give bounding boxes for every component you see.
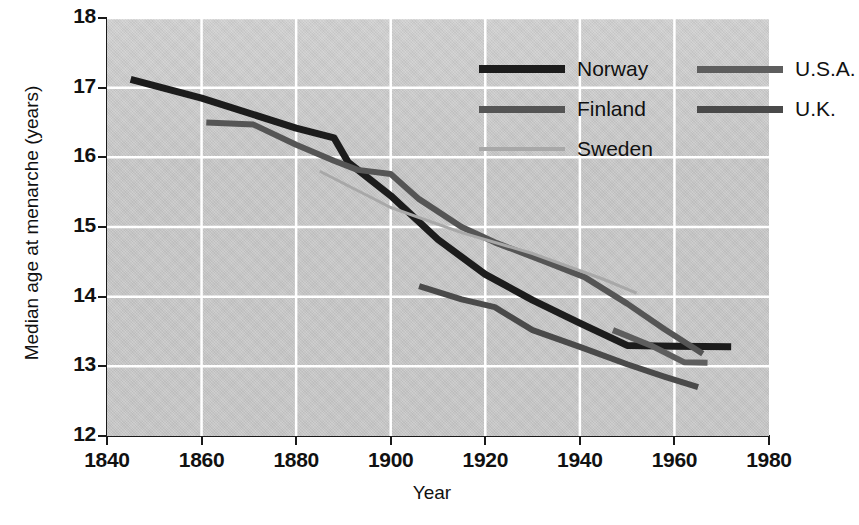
x-tick-mark — [484, 436, 486, 445]
x-tick-label: 1920 — [445, 448, 525, 472]
y-tick-label: 15 — [62, 213, 96, 237]
legend-swatch — [479, 147, 565, 151]
legend-swatch — [479, 106, 565, 113]
x-tick-label: 1980 — [729, 448, 809, 472]
x-tick-mark — [201, 436, 203, 445]
legend-label: Finland — [577, 96, 646, 122]
x-tick-label: 1960 — [634, 448, 714, 472]
y-tick-label: 14 — [62, 283, 96, 307]
y-tick-label: 18 — [62, 4, 96, 28]
legend-swatch — [697, 66, 783, 73]
y-tick-label: 17 — [62, 74, 96, 98]
x-tick-label: 1880 — [256, 448, 336, 472]
plot-area: NorwayFinlandSwedenU.S.A.U.K. — [107, 18, 769, 436]
x-axis-title-text: Year — [413, 482, 451, 503]
y-tick-label: 13 — [62, 352, 96, 376]
x-tick-label: 1900 — [351, 448, 431, 472]
x-tick-label: 1860 — [162, 448, 242, 472]
legend-label: Norway — [577, 56, 648, 82]
y-tick-label: 12 — [62, 422, 96, 446]
legend-swatch — [479, 65, 565, 73]
x-tick-mark — [768, 436, 770, 445]
x-tick-mark — [390, 436, 392, 445]
x-tick-label: 1940 — [540, 448, 620, 472]
x-tick-mark — [579, 436, 581, 445]
x-tick-label: 1840 — [67, 448, 147, 472]
legend-label: U.S.A. — [795, 56, 856, 82]
y-axis-title: Median age at menarche (years) — [21, 23, 43, 423]
y-tick-label-group: 12131415161718 — [52, 0, 96, 1]
legend-swatch — [697, 106, 783, 113]
series-line-u-k — [419, 286, 698, 387]
x-axis-title: Year — [0, 482, 814, 504]
x-tick-mark — [673, 436, 675, 445]
y-tick-label: 16 — [62, 143, 96, 167]
legend: NorwayFinlandSwedenU.S.A.U.K. — [479, 56, 859, 162]
x-tick-mark — [295, 436, 297, 445]
legend-label: Sweden — [577, 136, 653, 162]
legend-label: U.K. — [795, 96, 836, 122]
x-tick-mark — [106, 436, 108, 445]
